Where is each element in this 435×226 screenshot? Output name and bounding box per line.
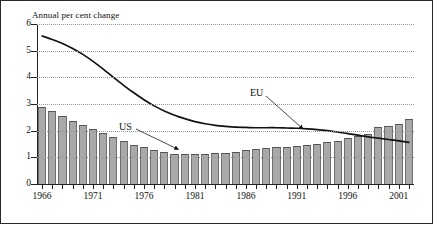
x-tick-mark [124,184,125,189]
x-tick-label: 1966 [33,191,52,201]
x-tick-mark [42,184,43,189]
x-tick-mark [195,184,196,189]
x-tick-mark [93,184,94,189]
annotation-label-us: US [119,121,132,132]
gridline [37,157,414,158]
x-tick-mark [297,184,298,189]
x-tick-mark [327,184,328,189]
x-tick-mark [185,184,186,189]
y-tick-label: 0 [11,178,31,188]
x-tick-mark [52,184,53,189]
x-tick-mark [73,184,74,189]
y-tick-label: 1 [11,151,31,161]
x-tick-mark [409,184,410,189]
x-tick-mark [226,184,227,189]
x-tick-mark [307,184,308,189]
x-tick-mark [83,184,84,189]
x-tick-mark [317,184,318,189]
x-tick-mark [276,184,277,189]
x-tick-mark [287,184,288,189]
gridline [37,24,414,25]
gridline [37,131,414,132]
y-tick-label: 2 [11,125,31,135]
x-tick-mark [338,184,339,189]
x-tick-mark [358,184,359,189]
y-tick-label: 6 [11,18,31,28]
y-tick-label: 3 [11,98,31,108]
x-tick-mark [154,184,155,189]
x-tick-label: 1976 [134,191,153,201]
gridline [37,104,414,105]
x-tick-mark [164,184,165,189]
chart-figure: Annual per cent change 0123456 196619711… [0,0,433,224]
x-tick-label: 1981 [185,191,204,201]
x-tick-mark [246,184,247,189]
x-tick-mark [205,184,206,189]
x-tick-mark [62,184,63,189]
x-tick-mark [348,184,349,189]
x-tick-mark [236,184,237,189]
y-tick-label: 4 [11,71,31,81]
x-tick-mark [389,184,390,189]
x-tick-label: 1996 [338,191,357,201]
x-tick-label: 1986 [236,191,255,201]
x-tick-mark [368,184,369,189]
x-tick-mark [378,184,379,189]
gridline [37,51,414,52]
x-tick-mark [144,184,145,189]
plot-area [37,24,414,184]
x-tick-mark [134,184,135,189]
gridline [37,77,414,78]
x-tick-label: 2001 [389,191,408,201]
chart-axis-title: Annual per cent change [32,10,119,20]
x-tick-mark [175,184,176,189]
x-tick-mark [399,184,400,189]
x-tick-mark [103,184,104,189]
y-tick-label: 5 [11,45,31,55]
annotation-label-eu: EU [250,87,263,98]
x-tick-label: 1991 [287,191,306,201]
x-tick-mark [215,184,216,189]
x-tick-mark [266,184,267,189]
x-tick-mark [113,184,114,189]
x-tick-mark [256,184,257,189]
x-tick-label: 1971 [84,191,103,201]
